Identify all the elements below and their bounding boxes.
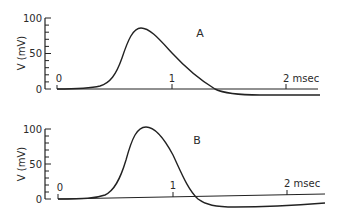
- chart-figure: 100 50 0 V (mV) 0 1 2 msec A: [0, 0, 339, 218]
- y-ticks-a: [45, 18, 51, 89]
- x-tick-label-0: 0: [56, 73, 62, 84]
- x-tick-label-0: 0: [57, 182, 63, 193]
- y-axis-label-b: V (mV): [16, 147, 27, 182]
- y-tick-label-100: 100: [23, 124, 42, 135]
- x-tick-label-1: 1: [170, 180, 176, 191]
- y-tick-label-0: 0: [36, 84, 42, 95]
- panel-label-a: A: [196, 27, 204, 40]
- y-tick-label-0: 0: [36, 194, 42, 205]
- panel-label-b: B: [193, 134, 201, 147]
- x-tick-label-1: 1: [169, 73, 175, 84]
- panel-b: 100 50 0 V (mV) 0 1 2 msec B: [16, 124, 325, 207]
- y-tick-label-50: 50: [29, 48, 42, 59]
- y-axis-label-a: V (mV): [16, 36, 27, 71]
- x-tick-label-2: 2 msec: [283, 73, 319, 84]
- y-tick-label-50: 50: [29, 159, 42, 170]
- y-ticks-b: [45, 129, 51, 199]
- x-tick-label-2: 2 msec: [284, 178, 320, 189]
- panel-a: 100 50 0 V (mV) 0 1 2 msec A: [16, 13, 320, 95]
- y-tick-label-100: 100: [23, 13, 42, 24]
- action-potential-curve-a: [57, 28, 320, 95]
